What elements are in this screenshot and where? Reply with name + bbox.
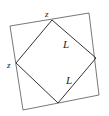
label-upper-right-side: L <box>62 38 69 50</box>
geometry-diagram: z z L L <box>0 0 109 116</box>
label-top-vertex: z <box>44 9 49 19</box>
label-lower-right-side: L <box>65 74 72 86</box>
label-left-vertex: z <box>6 60 11 70</box>
outer-square <box>10 13 99 110</box>
inner-square <box>16 20 96 103</box>
